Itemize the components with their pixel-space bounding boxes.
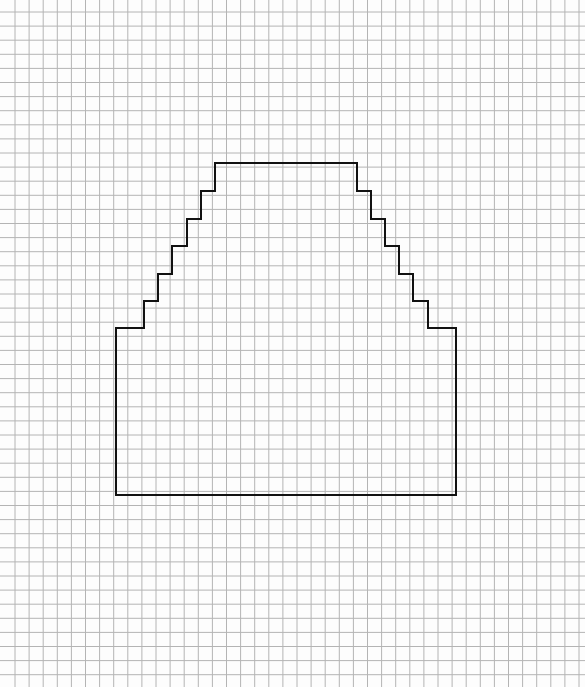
graph-paper: [0, 0, 585, 687]
grid-lines: [0, 0, 585, 687]
drawing-canvas: [0, 0, 585, 687]
stepped-shape-outline: [116, 163, 456, 495]
